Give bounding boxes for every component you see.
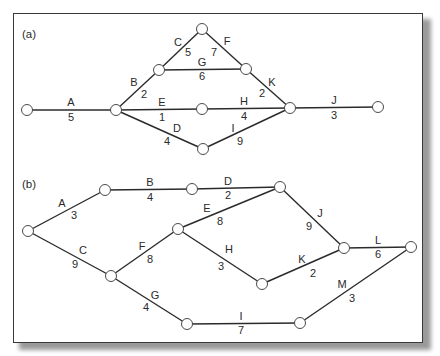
edge-weight-label: 9 xyxy=(306,220,312,232)
edge-weight-label: 2 xyxy=(141,88,147,100)
edge-h xyxy=(178,229,262,284)
edge-name-label: E xyxy=(203,202,210,214)
edge-name-label: A xyxy=(58,197,66,209)
node-circle xyxy=(23,226,34,237)
edge-c xyxy=(28,231,111,276)
edge-name-label: D xyxy=(224,175,232,187)
edge-name-label: C xyxy=(174,36,182,48)
edge-h xyxy=(202,108,290,109)
edge-j xyxy=(290,107,378,108)
node-circle xyxy=(106,271,117,282)
edge-weight-label: 7 xyxy=(238,324,244,336)
edge-d xyxy=(192,187,280,189)
edge-weight-label: 3 xyxy=(71,209,77,221)
edge-a xyxy=(28,190,105,231)
edge-name-label: E xyxy=(158,96,165,108)
edge-name-label: H xyxy=(240,95,248,107)
node-circle xyxy=(197,24,208,35)
edge-weight-label: 2 xyxy=(225,189,231,201)
node-circle xyxy=(241,64,252,75)
edge-name-label: L xyxy=(375,234,381,246)
edge-name-label: G xyxy=(151,289,160,301)
edge-name-label: I xyxy=(239,310,242,322)
edge-name-label: B xyxy=(130,76,137,88)
edge-weight-label: 5 xyxy=(185,46,191,58)
edge-j xyxy=(280,187,344,248)
edge-m xyxy=(300,247,411,323)
edge-weight-label: 4 xyxy=(147,191,153,203)
edge-name-label: F xyxy=(139,240,146,252)
edge-weight-label: 6 xyxy=(199,70,205,82)
edge-weight-label: 4 xyxy=(241,110,247,122)
edge-name-label: B xyxy=(146,176,153,188)
edge-b xyxy=(105,189,192,190)
node-circle xyxy=(339,243,350,254)
node-circle xyxy=(257,279,268,290)
node-circle xyxy=(275,182,286,193)
edge-weight-label: 9 xyxy=(72,258,78,270)
edge-weight-label: 2 xyxy=(310,267,316,279)
edge-weight-label: 1 xyxy=(159,111,165,123)
edge-name-label: J xyxy=(331,94,337,106)
edge-name-label: M xyxy=(337,278,346,290)
network-diagram: (a) (b) A5B2C5F7G6K2E1H4D4I9J3A3B4D2E8J9… xyxy=(0,0,440,356)
node-circle xyxy=(197,104,208,115)
edge-name-label: K xyxy=(298,253,306,265)
node-circle xyxy=(285,103,296,114)
node-circle xyxy=(154,65,165,76)
panel-label-a: (a) xyxy=(22,28,36,40)
edges-layer xyxy=(27,29,411,324)
edge-k xyxy=(246,69,290,108)
edge-name-label: G xyxy=(198,56,207,68)
edge-weight-label: 4 xyxy=(143,301,149,313)
edge-weight-label: 3 xyxy=(349,292,355,304)
edge-name-label: D xyxy=(173,122,181,134)
node-circle xyxy=(100,185,111,196)
node-circle xyxy=(22,105,33,116)
edge-weight-label: 7 xyxy=(211,46,217,58)
edge-weight-label: 9 xyxy=(237,135,243,147)
edge-name-label: C xyxy=(79,244,87,256)
edge-weight-label: 2 xyxy=(259,87,265,99)
edge-name-label: J xyxy=(317,207,323,219)
edge-g xyxy=(111,276,187,324)
node-circle xyxy=(187,184,198,195)
edge-weight-label: 8 xyxy=(217,215,223,227)
node-circle xyxy=(182,319,193,330)
edge-name-label: F xyxy=(224,35,231,47)
edge-weight-label: 8 xyxy=(147,253,153,265)
edge-weight-label: 6 xyxy=(375,248,381,260)
edge-weight-label: 3 xyxy=(218,260,224,272)
edge-name-label: I xyxy=(231,122,234,134)
panel-label-b: (b) xyxy=(22,178,36,190)
node-circle xyxy=(173,224,184,235)
node-circle xyxy=(406,242,417,253)
edge-name-label: K xyxy=(268,76,276,88)
edge-weight-label: 5 xyxy=(68,111,74,123)
edge-name-label: H xyxy=(225,243,233,255)
node-circle xyxy=(295,318,306,329)
edge-e xyxy=(116,109,202,110)
node-circle xyxy=(373,102,384,113)
edge-name-label: A xyxy=(67,96,75,108)
edge-weight-label: 4 xyxy=(164,135,170,147)
edge-f xyxy=(111,229,178,276)
node-circle xyxy=(111,105,122,116)
edge-weight-label: 3 xyxy=(331,109,337,121)
node-circle xyxy=(198,144,209,155)
